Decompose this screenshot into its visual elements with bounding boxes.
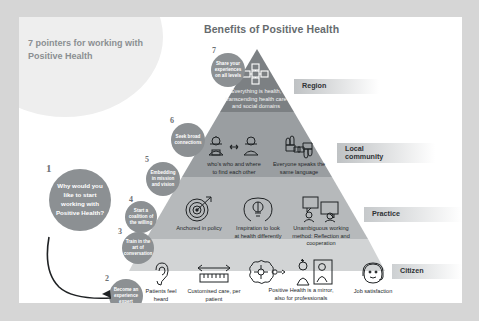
pointer-text-3: Train in the art of conversation	[121, 239, 156, 257]
tier-item-caption: Unambiguous working method: Reflection a…	[291, 225, 351, 248]
pointer-text-7: Share your experiences on all levels	[211, 61, 245, 79]
tier-item-caption: Anchored in policy	[171, 225, 227, 233]
tier-item-caption: Patients feel heard	[139, 288, 183, 303]
tier-label-citizen: Citizen	[392, 267, 424, 275]
tier-item-caption: who's who and where to find each other	[205, 161, 263, 176]
tier-item-practice-2: Unambiguous working method: Reflection a…	[291, 195, 351, 248]
tier-item-practice-0: Anchored in policy	[171, 195, 227, 233]
ruler-arrows-icon	[187, 261, 241, 286]
head-lightbulb-icon	[233, 195, 283, 223]
pointer-number-5: 5	[145, 155, 149, 164]
pointer-number-4: 4	[129, 195, 133, 204]
brain-mirror-icon	[247, 259, 291, 286]
matte-band-left	[0, 0, 19, 321]
tier-item-citizen-2-caption: Positive Health is a mirror, also for pr…	[265, 287, 337, 302]
flow-arrow	[43, 235, 123, 303]
speech-bubbles-icon	[291, 195, 351, 223]
matte-band-right	[462, 0, 479, 321]
matte-band-bottom	[0, 303, 479, 321]
matte-band-top	[0, 0, 479, 17]
tier-item-local-1: Everyone speaks the same language	[272, 135, 326, 176]
pointer-text-4: Start a coalition of the willing	[125, 208, 157, 226]
tier-label-local-community: Local community	[337, 145, 383, 162]
ribbon-region: Region	[294, 79, 379, 94]
tier-item-caption: Everything is health, transcending healt…	[220, 88, 292, 111]
ear-icon	[139, 261, 183, 286]
pointer-number-1: 1	[46, 162, 52, 174]
flow-arrow-icon	[43, 235, 123, 303]
pointer-circle-4[interactable]: Start a coalition of the willing	[125, 201, 157, 233]
smiling-headset-face-icon	[349, 261, 397, 286]
four-hands-icon	[272, 135, 326, 159]
pointer-circle-7[interactable]: Share your experiences on all levels	[211, 53, 245, 87]
ribbon-citizen: Citizen	[392, 264, 462, 279]
pointer-number-6: 6	[170, 116, 174, 125]
pointer-circle-6[interactable]: Seek broad connections	[171, 123, 205, 157]
pointer-number-7: 7	[212, 46, 216, 55]
page-title: Benefits of Positive Health	[204, 23, 339, 35]
tier-label-region: Region	[294, 82, 326, 90]
tier-item-caption: Customised care, per patient	[187, 288, 241, 303]
screenshot-root: Benefits of Positive Health 7 pointers f…	[0, 0, 479, 321]
tier-item-caption: Everyone speaks the same language	[272, 161, 326, 176]
pointer-circle-5[interactable]: Embedding in mission and vision	[146, 162, 180, 196]
two-people-icon	[205, 135, 263, 159]
target-arrow-icon	[171, 195, 227, 223]
tier-item-citizen-0: Patients feel heard	[139, 261, 183, 303]
pointer-text-6: Seek broad connections	[171, 134, 205, 146]
tier-item-caption: Positive Health is a mirror, also for pr…	[265, 287, 337, 302]
tier-label-practice: Practice	[364, 210, 400, 218]
tier-item-local-0: who's who and where to find each other	[205, 135, 263, 176]
ribbon-practice: Practice	[364, 207, 462, 222]
tier-item-citizen-2-icon	[247, 259, 291, 286]
pointer-text-5: Embedding in mission and vision	[146, 170, 180, 188]
tier-item-practice-1: Inspiration to look at health differentl…	[233, 195, 283, 240]
tier-item-citizen-3: Job satisfaction	[349, 261, 397, 296]
tier-item-caption: Job satisfaction	[349, 288, 397, 296]
tier-item-caption: Inspiration to look at health differentl…	[233, 225, 283, 240]
tier-item-citizen-2-figure	[295, 259, 335, 286]
pointer-circle-3[interactable]: Train in the art of conversation	[122, 232, 154, 264]
pointer-circle-1[interactable]: Why would you like to start working with…	[49, 169, 111, 231]
tier-item-citizen-1: Customised care, per patient	[187, 261, 241, 303]
ribbon-local-community: Local community	[337, 143, 435, 163]
pointer-text-1: Why would you like to start working with…	[49, 182, 111, 218]
person-at-mirror-icon	[295, 259, 335, 286]
slide-canvas: Benefits of Positive Health 7 pointers f…	[19, 17, 462, 303]
